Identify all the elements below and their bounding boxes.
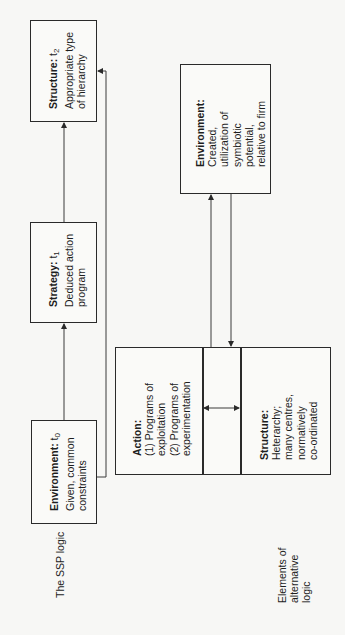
alternative-logic-caption: Elements of alternative logic [276, 548, 313, 603]
ssp-logic-caption: The SSP logic [54, 532, 66, 598]
arrow-env-to-structure [97, 71, 106, 477]
connector-layer [0, 0, 345, 635]
